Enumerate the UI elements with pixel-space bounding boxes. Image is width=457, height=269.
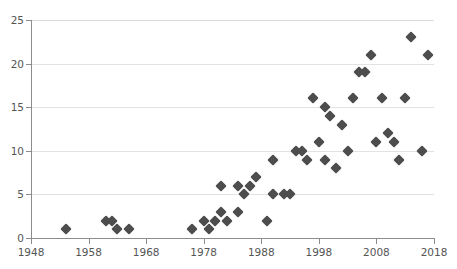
x-tick-mark-1958 [89,239,90,244]
x-axis-line [31,238,435,239]
x-tick-label: 1978 [182,247,226,258]
y-tick-mark-25 [26,20,31,21]
x-tick-mark-1988 [261,239,262,244]
gridline-y-20 [31,64,434,65]
y-tick-label: 0 [0,233,24,243]
x-tick-mark-1948 [31,239,32,244]
x-tick-label: 2008 [354,247,398,258]
x-tick-mark-1978 [204,239,205,244]
y-axis-line [31,20,32,239]
gridline-y-5 [31,194,434,195]
y-tick-label: 20 [0,59,24,69]
y-tick-mark-5 [26,194,31,195]
scatter-chart: 0510152025 19481958196819781988199820082… [0,0,457,269]
y-tick-label: 5 [0,189,24,199]
y-axis-tick-labels: 0510152025 [0,0,24,269]
gridline-y-10 [31,151,434,152]
y-tick-mark-10 [26,151,31,152]
y-tick-label: 15 [0,102,24,112]
x-tick-mark-2018 [434,239,435,244]
x-tick-label: 1998 [297,247,341,258]
x-tick-mark-2008 [376,239,377,244]
x-tick-label: 1958 [67,247,111,258]
y-tick-mark-20 [26,64,31,65]
x-tick-label: 1988 [239,247,283,258]
gridline-y-15 [31,107,434,108]
y-tick-mark-15 [26,107,31,108]
x-tick-label: 1968 [124,247,168,258]
x-tick-label: 1948 [9,247,53,258]
gridline-y-25 [31,20,434,21]
x-tick-mark-1968 [146,239,147,244]
x-tick-mark-1998 [319,239,320,244]
x-tick-label: 2018 [412,247,456,258]
y-tick-label: 10 [0,146,24,156]
y-tick-label: 25 [0,15,24,25]
